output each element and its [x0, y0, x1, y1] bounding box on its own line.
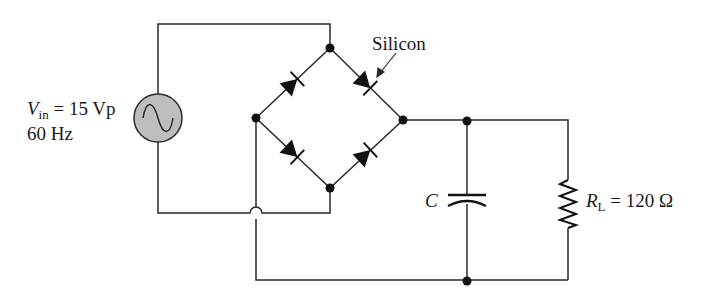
load-subscript: L [598, 199, 606, 214]
wire-left-return [256, 118, 568, 280]
source-value: = 15 Vp [53, 98, 115, 119]
wire-top [158, 24, 330, 94]
capacitor-label: C [425, 191, 438, 210]
ac-source-icon [134, 94, 182, 142]
annotation-arrow-icon [377, 53, 396, 77]
resistor-icon [560, 180, 576, 228]
load-resistor-label: RL = 120 Ω [586, 191, 673, 210]
load-symbol: R [586, 190, 598, 211]
source-subscript: in [39, 107, 49, 122]
source-frequency-label: 60 Hz [27, 124, 73, 143]
circuit-schematic [0, 0, 712, 294]
source-voltage-label: Vin = 15 Vp [27, 99, 116, 118]
bridge-edges [256, 48, 403, 188]
load-value: = 120 Ω [610, 190, 673, 211]
source-symbol: V [27, 98, 39, 119]
diode-material-label: Silicon [372, 34, 426, 53]
wire-output-top [403, 120, 568, 180]
wire-source-bottom [158, 142, 330, 213]
